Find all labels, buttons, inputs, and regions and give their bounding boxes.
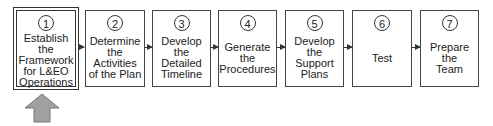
step-4-box: 4 Generate the Procedures — [218, 10, 277, 87]
step-number-circle: 7 — [442, 15, 458, 31]
step-number-circle: 4 — [240, 15, 256, 31]
step-5-box: 5 Develop the Support Plans — [285, 10, 344, 87]
step-2-box: 2 Determine the Activities of the Plan — [85, 10, 145, 87]
step-7-box: 7 Prepare the Team — [420, 10, 479, 87]
step-label: Develop the Support Plans — [286, 33, 343, 83]
step-1-box: 1 Establish the Framework for L&EO Opera… — [13, 7, 79, 90]
step-label: Develop the Detailed Timeline — [153, 33, 210, 83]
connector-arrow-icon — [277, 47, 285, 48]
step-label: Test — [353, 33, 411, 83]
step-label: Determine the Activities of the Plan — [86, 33, 144, 83]
step-3-box: 3 Develop the Detailed Timeline — [152, 10, 211, 87]
connector-arrow-icon — [211, 47, 218, 48]
connector-arrow-icon — [79, 47, 84, 48]
step-number-circle: 3 — [174, 15, 190, 31]
connector-arrow-icon — [145, 47, 152, 48]
step-number-circle: 2 — [107, 15, 123, 31]
step-number-circle: 6 — [374, 15, 390, 31]
step-number-circle: 5 — [307, 15, 323, 31]
up-arrow-icon — [24, 93, 60, 123]
step-label: Establish the Framework for L&EO Operati… — [17, 33, 75, 88]
connector-arrow-icon — [412, 47, 420, 48]
connector-arrow-icon — [344, 47, 352, 48]
step-6-box: 6 Test — [352, 10, 412, 87]
step-number-circle: 1 — [38, 15, 54, 31]
step-label: Prepare the Team — [421, 33, 478, 83]
step-label: Generate the Procedures — [219, 33, 276, 83]
